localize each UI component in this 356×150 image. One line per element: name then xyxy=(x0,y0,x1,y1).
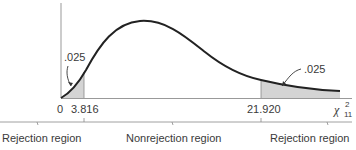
tick-label-zero: 0 xyxy=(57,104,63,115)
region-label-right-rejection: Rejection region xyxy=(270,133,350,144)
tick-label-lower-critical: 3.816 xyxy=(71,104,99,115)
region-label-nonrejection: Nonrejection region xyxy=(126,133,221,144)
x-axis-superscript: 2 xyxy=(345,101,349,109)
tick-label-upper-critical: 21.920 xyxy=(247,104,281,115)
region-brackets xyxy=(0,118,352,125)
region-label-left-rejection: Rejection region xyxy=(2,133,82,144)
density-curve xyxy=(61,21,340,98)
left-tail-shade xyxy=(61,72,84,98)
chi-square-diagram xyxy=(0,0,356,150)
right-tail-area-label: .025 xyxy=(304,64,325,75)
left-tail-area-label: .025 xyxy=(64,52,85,63)
x-axis-symbol: χ xyxy=(334,104,339,116)
x-axis-subscript: 11 xyxy=(344,111,352,119)
